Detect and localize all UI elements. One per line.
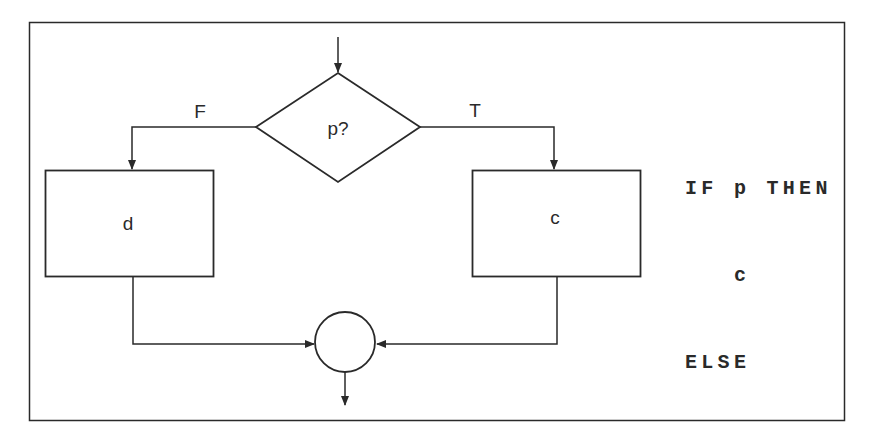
code-line: ELSE xyxy=(685,348,832,377)
true-branch-line xyxy=(420,127,554,169)
c-to-merge-line xyxy=(377,277,557,344)
d-to-merge-line xyxy=(133,277,314,344)
code-line: c xyxy=(685,261,832,290)
box-c-label: c xyxy=(550,207,560,228)
box-d-label: d xyxy=(123,213,134,234)
code-line: IF p THEN xyxy=(685,174,832,203)
true-label: T xyxy=(469,100,481,121)
pseudocode-block: IF p THEN c ELSE d ENDIF xyxy=(685,116,832,438)
decision-label: p? xyxy=(327,118,348,139)
merge-node xyxy=(315,312,375,372)
false-branch-line xyxy=(132,127,256,169)
false-label: F xyxy=(194,101,206,122)
